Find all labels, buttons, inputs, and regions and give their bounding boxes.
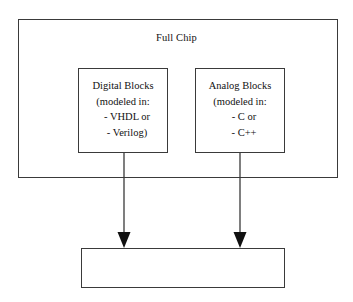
analog-blocks-line-2: (modeled in:: [196, 94, 284, 110]
analog-blocks-line-1: Analog Blocks: [196, 78, 284, 94]
analog-blocks-line-4: - C++: [196, 125, 284, 141]
analog-blocks-text: Analog Blocks (modeled in: - C or - C++: [196, 78, 284, 140]
digital-blocks-line-4: - Verilog): [79, 125, 167, 141]
digital-blocks-box: Digital Blocks (modeled in: - VHDL or - …: [78, 68, 168, 153]
analog-blocks-line-3: - C or: [196, 109, 284, 125]
digital-blocks-line-1: Digital Blocks: [79, 78, 167, 94]
digital-blocks-line-3: - VHDL or: [79, 109, 167, 125]
down-arrow-icon-analog: [234, 232, 247, 248]
arrow-digital-to-simulator: [118, 153, 131, 248]
down-arrow-icon-digital: [118, 232, 131, 248]
analog-blocks-box: Analog Blocks (modeled in: - C or - C++: [195, 68, 285, 153]
diagram-canvas: Full Chip Digital Blocks (modeled in: - …: [0, 0, 353, 302]
arrow-analog-to-simulator: [234, 153, 247, 248]
digital-blocks-line-2: (modeled in:: [79, 94, 167, 110]
simulator-box: [81, 248, 285, 288]
digital-blocks-text: Digital Blocks (modeled in: - VHDL or - …: [79, 78, 167, 140]
